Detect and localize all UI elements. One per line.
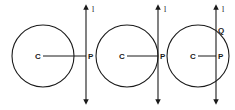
point-q-label: Q (218, 26, 224, 35)
point-p-label: P (160, 52, 166, 61)
point-p-label: P (88, 52, 94, 61)
panel-non-intersecting: CPl (12, 5, 95, 102)
panel-secant: CPlQ (167, 5, 229, 102)
point-p-label: P (218, 52, 224, 61)
center-label: C (190, 52, 196, 61)
center-label: C (35, 52, 41, 61)
diagram-canvas: CPlCPlCPlQ (0, 0, 235, 110)
center-label: C (119, 52, 125, 61)
circle-line-diagram: CPlCPlCPlQ (0, 0, 235, 110)
panel-tangent: CPl (96, 5, 167, 102)
line-l-label: l (222, 5, 225, 14)
line-l-label: l (92, 5, 95, 14)
line-l-label: l (164, 5, 167, 14)
